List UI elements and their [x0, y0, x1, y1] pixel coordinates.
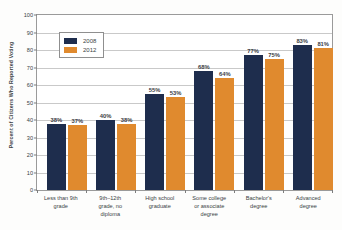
bar-value-label: 40% [100, 113, 112, 119]
bar-value-label: 37% [72, 118, 84, 124]
bar-value-label: 53% [170, 90, 182, 96]
y-tick-label: 30 [27, 135, 33, 141]
y-tick-label: 40 [27, 117, 33, 123]
bar: 53% [166, 97, 185, 190]
x-tick-mark [185, 190, 186, 193]
bar-value-label: 75% [268, 52, 280, 58]
plot-area: 1009080706050403020100 38%37%40%38%55%53… [36, 14, 333, 191]
legend-label: 2008 [83, 38, 96, 44]
x-category-label: Bachelor'sdegree [234, 194, 284, 218]
bar: 77% [244, 55, 263, 190]
y-tick-label: 90 [27, 30, 33, 36]
bar: 40% [96, 120, 115, 190]
legend-entry: 2012 [64, 45, 96, 54]
x-tick-mark [37, 190, 38, 193]
bar: 81% [314, 48, 333, 190]
bar: 38% [117, 124, 136, 191]
y-tick-label: 100 [24, 12, 33, 18]
bar: 68% [194, 71, 213, 190]
bar-group: 68%64% [185, 15, 234, 190]
bar-value-label: 77% [247, 48, 259, 54]
y-tick-label: 20 [27, 152, 33, 158]
y-axis-title: Percent of Citizens Who Reported Voting [8, 15, 14, 175]
x-tick-mark [234, 190, 235, 193]
y-tick-label: 70 [27, 65, 33, 71]
y-tick-label: 80 [27, 47, 33, 53]
chart-legend: 20082012 [59, 32, 104, 58]
bar: 55% [145, 94, 164, 190]
bar: 64% [215, 78, 234, 190]
chart-figure: Voting, 2008 and 2012 Percent of Citizen… [0, 0, 342, 230]
bar-value-label: 64% [219, 71, 231, 77]
x-category-label: High schoolgraduate [135, 194, 185, 218]
bar-group: 77%75% [234, 15, 283, 190]
x-tick-mark [135, 190, 136, 193]
y-tick-label: 60 [27, 82, 33, 88]
bar-group: 83%81% [283, 15, 332, 190]
bar-value-label: 38% [51, 117, 63, 123]
legend-swatch [64, 47, 77, 53]
x-category-label: Some collegeor associatedegree [185, 194, 235, 218]
bar-group: 55%53% [135, 15, 184, 190]
x-tick-mark [283, 190, 284, 193]
bar: 75% [265, 59, 284, 190]
x-category-label: Advanceddegree [284, 194, 334, 218]
bar-value-label: 83% [296, 38, 308, 44]
y-tick-label: 10 [27, 170, 33, 176]
x-tick-mark [332, 190, 333, 193]
bar-value-label: 38% [121, 117, 133, 123]
legend-swatch [64, 38, 77, 44]
x-axis-labels: Less than 9thgrade9th–12thgrade, nodiplo… [36, 194, 333, 218]
bar: 37% [68, 125, 87, 190]
bar-value-label: 81% [317, 41, 329, 47]
bar: 38% [47, 124, 66, 191]
x-category-label: Less than 9thgrade [36, 194, 86, 218]
x-tick-mark [86, 190, 87, 193]
legend-entry: 2008 [64, 36, 96, 45]
y-tick-label: 0 [30, 187, 33, 193]
y-tick-label: 50 [27, 100, 33, 106]
x-category-label: 9th–12thgrade, nodiploma [86, 194, 136, 218]
bar: 83% [293, 45, 312, 190]
legend-label: 2012 [83, 47, 96, 53]
bar-value-label: 55% [149, 87, 161, 93]
bar-value-label: 68% [198, 64, 210, 70]
